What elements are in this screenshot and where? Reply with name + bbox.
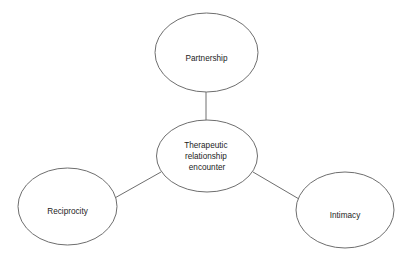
- therapeutic-relationship-encounter-label: Therapeutic relationship encounter: [184, 141, 230, 172]
- diagram-canvas: Partnership Therapeutic relationship enc…: [0, 0, 407, 262]
- concept-map-diagram: Partnership Therapeutic relationship enc…: [0, 0, 407, 262]
- center-label-line-1: Therapeutic: [184, 141, 227, 150]
- partnership-label: Partnership: [186, 54, 228, 63]
- partnership-ellipse: [155, 13, 258, 92]
- center-label-line-2: relationship: [185, 152, 227, 161]
- node-reciprocity[interactable]: Reciprocity: [18, 168, 117, 245]
- node-therapeutic-relationship-encounter[interactable]: Therapeutic relationship encounter: [157, 120, 258, 192]
- node-intimacy[interactable]: Intimacy: [296, 172, 394, 248]
- node-partnership[interactable]: Partnership: [155, 13, 258, 92]
- connector-center-to-intimacy: [253, 172, 299, 199]
- center-label-line-3: encounter: [189, 163, 226, 172]
- connector-center-to-reciprocity: [113, 172, 161, 199]
- intimacy-label: Intimacy: [330, 211, 361, 220]
- reciprocity-label: Reciprocity: [47, 207, 88, 216]
